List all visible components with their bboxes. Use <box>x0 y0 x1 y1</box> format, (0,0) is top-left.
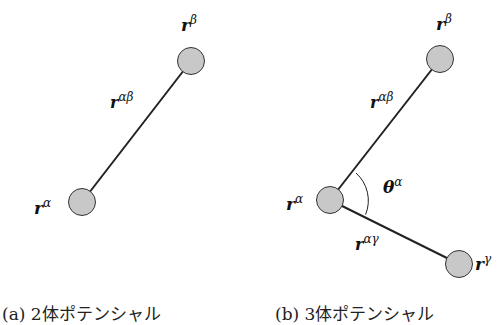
atom-alpha <box>317 187 344 214</box>
label-r-alpha: rα <box>34 196 51 218</box>
atom-beta <box>178 48 205 75</box>
potential-diagram: rβ rα rαβ rβ rα rγ rαβ rαγ θα <box>0 0 501 325</box>
label-r-alpha-gamma: rαγ <box>355 232 380 254</box>
bond-alpha-beta <box>82 61 191 202</box>
bond-alpha-gamma <box>330 200 459 264</box>
panel-a: rβ rα rαβ <box>34 13 205 218</box>
angle-arc <box>356 173 368 215</box>
caption-b: (b) 3体ポテンシャル <box>275 300 434 325</box>
label-r-gamma: rγ <box>475 252 492 274</box>
label-r-alpha-beta: rαβ <box>110 90 134 112</box>
label-r-beta: rβ <box>181 13 197 35</box>
atom-gamma <box>446 251 473 278</box>
label-r-beta: rβ <box>436 12 452 34</box>
label-theta-alpha: θα <box>383 175 402 197</box>
atom-alpha <box>69 189 96 216</box>
label-r-alpha: rα <box>286 192 303 214</box>
panel-b: rβ rα rγ rαβ rαγ θα <box>286 12 492 278</box>
atom-beta <box>427 46 454 73</box>
label-r-alpha-beta: rαβ <box>370 90 394 112</box>
caption-a: (a) 2体ポテンシャル <box>2 300 161 325</box>
